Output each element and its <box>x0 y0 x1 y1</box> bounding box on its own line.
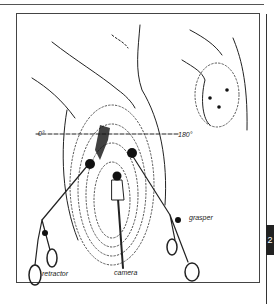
inset-arm-lower <box>182 60 210 125</box>
axilla-hair <box>112 35 128 48</box>
inset-arm-upper <box>190 30 222 55</box>
angle-label-180: 180° <box>178 131 192 138</box>
arm-outline-lower <box>32 78 75 118</box>
camera-label: camera <box>114 269 137 276</box>
retractor-ring-2 <box>47 249 57 267</box>
grasper-port <box>127 148 137 158</box>
angle-label-0: 0° <box>38 130 45 137</box>
retractor-label: retractor <box>42 270 68 277</box>
retractor-shaft <box>42 165 88 220</box>
grasper-ring-1 <box>167 239 177 255</box>
camera-body <box>112 180 124 200</box>
grasper-label: grasper <box>189 214 213 221</box>
inset-breast <box>195 63 239 127</box>
retractor-port <box>85 159 95 169</box>
camera-port <box>113 172 122 181</box>
torso-right <box>138 25 166 205</box>
arm-outline-upper <box>52 42 135 108</box>
surgical-illustration <box>0 0 274 305</box>
inset-torso <box>233 38 247 130</box>
retractor-ring-1 <box>29 265 41 285</box>
grasper-ring-2 <box>185 263 199 281</box>
